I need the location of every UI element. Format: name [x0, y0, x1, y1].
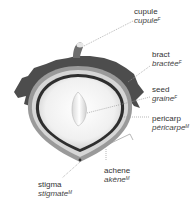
label-en: pericarp — [152, 114, 189, 123]
label-fr: bractée — [152, 59, 179, 68]
gender-mark: F — [179, 60, 182, 65]
label-fr: stigmate — [38, 189, 68, 198]
gender-mark: M — [185, 124, 189, 129]
gender-mark: M — [68, 190, 72, 195]
label-pericarp: pericarp péricarpeM — [152, 114, 189, 132]
label-en: cupule — [134, 7, 160, 16]
label-achene: achene akèneM — [104, 166, 130, 184]
label-fr: akène — [104, 175, 126, 184]
label-stigma: stigma stigmateM — [38, 180, 72, 198]
gender-mark: F — [158, 17, 161, 22]
label-fr: graine — [152, 94, 174, 103]
label-en: bract — [152, 50, 181, 59]
gender-mark: F — [174, 95, 177, 100]
label-en: achene — [104, 166, 130, 175]
label-bract: bract bractéeF — [152, 50, 181, 68]
label-en: stigma — [38, 180, 72, 189]
label-seed: seed graineF — [152, 85, 177, 103]
stigma — [79, 159, 82, 162]
label-cupule: cupule cupuleF — [134, 7, 160, 25]
label-fr: cupule — [134, 16, 158, 25]
gender-mark: M — [126, 176, 130, 181]
label-en: seed — [152, 85, 177, 94]
label-fr: péricarpe — [152, 123, 185, 132]
